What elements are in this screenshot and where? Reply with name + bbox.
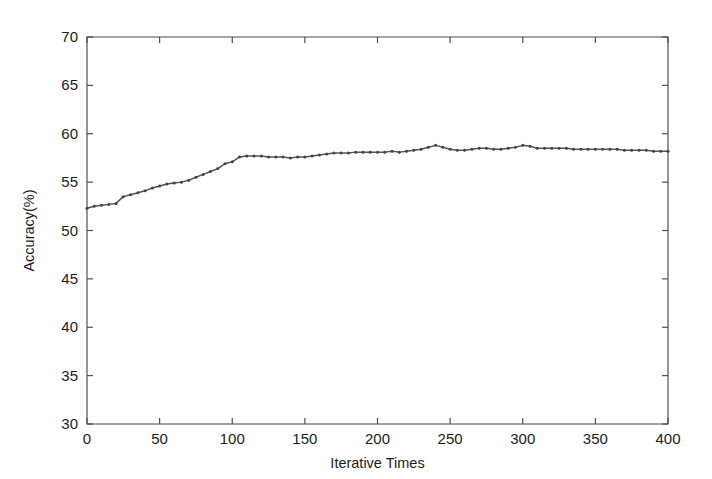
x-axis-title: Iterative Times [330, 455, 424, 471]
x-tick-label: 50 [151, 430, 168, 447]
data-point-marker [645, 149, 648, 152]
data-point-marker [463, 149, 466, 152]
data-point-marker [216, 167, 219, 170]
y-tick-label: 45 [61, 270, 78, 287]
y-tick-label: 40 [61, 318, 78, 335]
data-point-marker [187, 179, 190, 182]
data-point-marker [122, 195, 125, 198]
data-point-marker [289, 156, 292, 159]
data-point-marker [630, 149, 633, 152]
data-point-marker [449, 148, 452, 151]
data-point-marker [383, 151, 386, 154]
data-point-marker [158, 185, 161, 188]
x-axis-tick-labels: 050100150200250300350400 [83, 430, 681, 447]
data-point-marker [420, 148, 423, 151]
data-point-marker [282, 155, 285, 158]
data-point-marker [340, 152, 343, 155]
x-tick-label: 0 [83, 430, 91, 447]
data-point-marker [238, 155, 241, 158]
data-point-marker [173, 182, 176, 185]
x-tick-label: 300 [510, 430, 535, 447]
data-point-marker [667, 150, 670, 153]
data-point-marker [565, 147, 568, 150]
data-point-marker [274, 155, 277, 158]
data-point-marker [391, 150, 394, 153]
axis-tick-marks [87, 37, 668, 424]
data-point-marker [151, 186, 154, 189]
data-point-marker [652, 150, 655, 153]
data-point-marker [209, 170, 212, 173]
x-tick-label: 250 [438, 430, 463, 447]
data-point-marker [136, 191, 139, 194]
data-point-marker [347, 152, 350, 155]
data-point-marker [456, 149, 459, 152]
x-tick-label: 400 [655, 430, 680, 447]
data-point-marker [608, 148, 611, 151]
y-axis-tick-labels: 303540455055606570 [61, 28, 78, 432]
y-tick-label: 35 [61, 367, 78, 384]
y-axis-title: Accuracy(%) [21, 189, 37, 271]
data-point-marker [165, 183, 168, 186]
x-tick-label: 100 [220, 430, 245, 447]
accuracy-line-chart: 050100150200250300350400 303540455055606… [0, 0, 712, 479]
data-point-marker [470, 148, 473, 151]
data-point-marker [231, 160, 234, 163]
plot-axes [87, 37, 668, 424]
data-point-marker [398, 151, 401, 154]
data-point-marker [594, 148, 597, 151]
data-point-marker [129, 193, 132, 196]
data-point-marker [579, 148, 582, 151]
y-tick-label: 30 [61, 415, 78, 432]
data-point-marker [601, 148, 604, 151]
data-point-marker [318, 154, 321, 157]
data-point-marker [260, 155, 263, 158]
data-point-marker [587, 148, 590, 151]
accuracy-line [87, 145, 668, 208]
data-point-marker [485, 147, 488, 150]
data-point-marker [369, 151, 372, 154]
data-point-marker [521, 144, 524, 147]
data-point-marker [100, 204, 103, 207]
data-point-marker [245, 155, 248, 158]
data-point-marker [223, 162, 226, 165]
data-point-marker [311, 155, 314, 158]
data-series-group [86, 144, 670, 210]
data-point-marker [194, 176, 197, 179]
data-point-marker [361, 151, 364, 154]
data-point-marker [478, 147, 481, 150]
data-point-marker [499, 148, 502, 151]
data-point-marker [303, 155, 306, 158]
y-tick-label: 60 [61, 125, 78, 142]
axes-frame [87, 37, 668, 424]
data-point-marker [267, 155, 270, 158]
data-point-marker [107, 203, 110, 206]
data-point-marker [529, 145, 532, 148]
y-tick-label: 65 [61, 76, 78, 93]
y-tick-label: 50 [61, 222, 78, 239]
data-point-marker [536, 147, 539, 150]
x-tick-label: 150 [292, 430, 317, 447]
data-point-marker [659, 150, 662, 153]
data-point-marker [115, 202, 118, 205]
data-point-marker [325, 153, 328, 156]
data-point-marker [543, 147, 546, 150]
data-point-marker [441, 146, 444, 149]
data-point-marker [507, 147, 510, 150]
data-point-marker [296, 155, 299, 158]
data-point-marker [492, 148, 495, 151]
data-point-marker [376, 151, 379, 154]
data-point-marker [253, 155, 256, 158]
data-point-marker [354, 151, 357, 154]
data-point-marker [332, 152, 335, 155]
y-tick-label: 70 [61, 28, 78, 45]
data-point-marker [202, 173, 205, 176]
data-point-marker [623, 149, 626, 152]
data-point-marker [514, 146, 517, 149]
data-point-marker [434, 144, 437, 147]
y-tick-label: 55 [61, 173, 78, 190]
x-tick-label: 350 [583, 430, 608, 447]
data-point-marker [93, 205, 96, 208]
data-point-marker [637, 149, 640, 152]
data-point-marker [405, 150, 408, 153]
data-point-marker [180, 181, 183, 184]
